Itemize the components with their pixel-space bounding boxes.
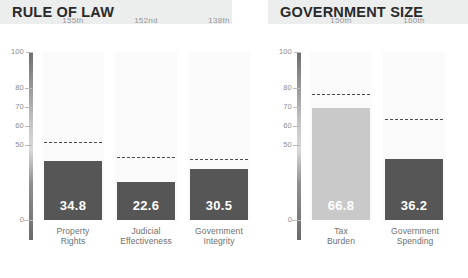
- rank-label-government-spending: 160th: [383, 16, 445, 25]
- bar-government-integrity[interactable]: 30.5: [190, 169, 248, 220]
- y-tick-mark-50: [25, 145, 32, 146]
- y-tick-label-0: 0: [2, 216, 24, 224]
- y-tick-mark-0: [24, 220, 33, 221]
- rank-label-government-integrity: 138th: [188, 16, 250, 25]
- world-average-line-judicial-effectiveness: [117, 157, 175, 158]
- category-label-line1: Government: [375, 226, 455, 236]
- bar-value-government-integrity: 30.5: [190, 198, 248, 213]
- y-tick-mark-80: [293, 88, 300, 89]
- category-label-line2: Burden: [306, 236, 376, 246]
- bar-value-judicial-effectiveness: 22.6: [117, 198, 175, 213]
- rank-label-property-rights: 155th: [42, 16, 104, 25]
- category-label-line1: Tax: [306, 226, 376, 236]
- category-label-line1: Government: [181, 226, 257, 236]
- panel-government-size: GOVERNMENT SIZE 100 80 70 60 50 0 150th …: [268, 0, 468, 278]
- y-tick-label-70: 70: [270, 103, 292, 111]
- category-label-line1: Property: [38, 226, 108, 236]
- chart-plot-area: 100 80 70 60 50 0 150th 66.8 Tax Burden: [268, 32, 468, 278]
- category-label-government-integrity: Government Integrity: [181, 226, 257, 246]
- y-tick-label-100: 100: [270, 48, 292, 56]
- bar-value-property-rights: 34.8: [44, 198, 102, 213]
- y-tick-mark-70: [293, 107, 300, 108]
- y-tick-mark-70: [25, 107, 32, 108]
- y-tick-label-70: 70: [2, 103, 24, 111]
- bar-judicial-effectiveness[interactable]: 22.6: [117, 182, 175, 220]
- y-tick-mark-60: [25, 126, 32, 127]
- y-tick-label-50: 50: [270, 141, 292, 149]
- y-tick-label-50: 50: [2, 141, 24, 149]
- category-label-line2: Integrity: [181, 236, 257, 246]
- y-tick-label-80: 80: [2, 84, 24, 92]
- world-average-line-government-integrity: [190, 159, 248, 160]
- y-tick-mark-0: [292, 220, 301, 221]
- rank-label-judicial-effectiveness: 152nd: [115, 16, 177, 25]
- panel-rule-of-law: RULE OF LAW 100 80 70 60 50 0 155th 34.8: [0, 0, 232, 278]
- category-label-government-spending: Government Spending: [375, 226, 455, 246]
- y-tick-label-60: 60: [270, 122, 292, 130]
- bar-government-spending[interactable]: 36.2: [385, 159, 443, 220]
- y-tick-label-0: 0: [270, 216, 292, 224]
- world-average-line-property-rights: [44, 142, 102, 143]
- category-label-tax-burden: Tax Burden: [306, 226, 376, 246]
- bar-value-tax-burden: 66.8: [312, 198, 370, 213]
- category-label-property-rights: Property Rights: [38, 226, 108, 246]
- rank-label-tax-burden: 150th: [310, 16, 372, 25]
- y-tick-mark-60: [293, 126, 300, 127]
- category-label-line2: Rights: [38, 236, 108, 246]
- y-tick-mark-100: [294, 52, 301, 53]
- chart-plot-area: 100 80 70 60 50 0 155th 34.8 Property Ri…: [0, 32, 232, 278]
- y-tick-label-60: 60: [2, 122, 24, 130]
- y-tick-mark-80: [25, 88, 32, 89]
- y-tick-mark-50: [293, 145, 300, 146]
- bar-property-rights[interactable]: 34.8: [44, 161, 102, 220]
- category-label-line2: Effectiveness: [107, 236, 185, 246]
- bar-value-government-spending: 36.2: [385, 198, 443, 213]
- category-label-line1: Judicial: [107, 226, 185, 236]
- y-tick-mark-100: [26, 52, 33, 53]
- world-average-line-government-spending: [385, 119, 443, 120]
- y-tick-label-100: 100: [2, 48, 24, 56]
- y-axis-spine: [297, 52, 301, 240]
- category-label-judicial-effectiveness: Judicial Effectiveness: [107, 226, 185, 246]
- world-average-line-tax-burden: [312, 94, 370, 95]
- y-axis-spine: [29, 52, 33, 240]
- y-tick-label-80: 80: [270, 84, 292, 92]
- bar-tax-burden[interactable]: 66.8: [312, 108, 370, 220]
- category-label-line2: Spending: [375, 236, 455, 246]
